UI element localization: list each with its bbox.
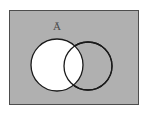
left-circle-set-a xyxy=(31,39,83,91)
venn-diagram-canvas: Ā xyxy=(0,0,150,114)
set-complement-label: Ā xyxy=(53,20,61,32)
venn-diagram-figure: Ā xyxy=(0,0,150,114)
